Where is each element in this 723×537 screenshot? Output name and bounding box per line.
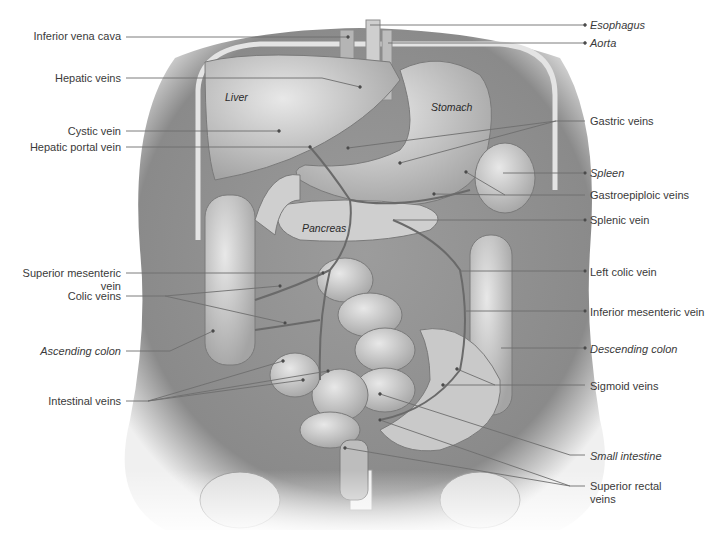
- callout-label-inferior-vena-cava: Inferior vena cava: [34, 30, 121, 43]
- leader-line-inferior-vena-cava-endpoint: [347, 36, 350, 39]
- leader-line-intestinal-veins-endpoint: [302, 379, 305, 382]
- callout-label-esophagus: Esophagus: [590, 19, 645, 32]
- leader-line-inferior-mesenteric-vein-endpoint: [584, 310, 587, 313]
- leader-line-gastroepiploic-veins-endpoint: [465, 171, 468, 174]
- leader-line-descending-colon-endpoint: [584, 347, 587, 350]
- leader-line-gastroepiploic-veins-endpoint: [433, 193, 436, 196]
- leader-line-superior-mesenteric-vein-endpoint: [322, 272, 325, 275]
- leader-line-colic-veins-endpoint: [284, 322, 287, 325]
- leader-line-small-intestine-endpoint: [379, 393, 382, 396]
- leader-line-superior-rectal-veins-endpoint: [379, 419, 382, 422]
- callout-label-descending-colon: Descending colon: [590, 343, 677, 356]
- leader-line-hepatic-portal-vein-endpoint: [309, 146, 312, 149]
- leader-line-esophagus-endpoint: [584, 24, 587, 27]
- callout-label-gastroepiploic-veins: Gastroepiploic veins: [590, 189, 689, 202]
- hepatic-portal-system-figure: LiverStomachPancreas Inferior vena cavaH…: [0, 0, 723, 537]
- callout-label-cystic-vein: Cystic vein: [68, 125, 121, 138]
- callout-label-ascending-colon: Ascending colon: [40, 345, 121, 358]
- leader-line-gastric-veins-endpoint: [347, 147, 350, 150]
- callout-label-colic-veins: Colic veins: [68, 290, 121, 303]
- leader-line-intestinal-veins-endpoint: [327, 370, 330, 373]
- callout-label-spleen: Spleen: [590, 167, 624, 180]
- callout-label-inferior-mesenteric-vein: Inferior mesenteric vein: [590, 306, 704, 319]
- leader-line-cystic-vein-endpoint: [278, 130, 281, 133]
- organ-label-liver: Liver: [225, 91, 248, 103]
- leader-line-sigmoid-veins-endpoint: [456, 368, 459, 371]
- leader-line-splenic-vein-endpoint: [584, 219, 587, 222]
- leader-line-ascending-colon-endpoint: [212, 330, 215, 333]
- leader-line-colic-veins-endpoint: [279, 285, 282, 288]
- leader-line-spleen-endpoint: [584, 172, 587, 175]
- callout-label-aorta: Aorta: [590, 37, 616, 50]
- leader-line-superior-rectal-veins-endpoint: [344, 447, 347, 450]
- callout-label-hepatic-portal-vein: Hepatic portal vein: [30, 141, 121, 154]
- leader-line-intestinal-veins-endpoint: [282, 360, 285, 363]
- leader-line-left-colic-vein-endpoint: [584, 270, 587, 273]
- callout-label-gastric-veins: Gastric veins: [590, 115, 654, 128]
- callout-label-superior-rectal-veins: Superior rectalveins: [590, 480, 662, 506]
- callout-label-splenic-vein: Splenic vein: [590, 214, 649, 227]
- callout-label-left-colic-vein: Left colic vein: [590, 266, 657, 279]
- spleen-shape: [475, 143, 535, 213]
- organ-label-stomach: Stomach: [431, 101, 472, 113]
- callout-label-hepatic-veins: Hepatic veins: [55, 72, 121, 85]
- organ-label-pancreas: Pancreas: [302, 222, 346, 234]
- ascending-colon-shape: [205, 195, 255, 365]
- callout-label-intestinal-veins: Intestinal veins: [48, 395, 121, 408]
- leader-line-sigmoid-veins-endpoint: [442, 384, 445, 387]
- callout-label-sigmoid-veins: Sigmoid veins: [590, 380, 658, 393]
- leader-line-hepatic-veins-endpoint: [359, 86, 362, 89]
- callout-label-small-intestine: Small intestine: [590, 450, 662, 463]
- leader-line-aorta-endpoint: [584, 42, 587, 45]
- leader-line-gastric-veins-endpoint: [399, 162, 402, 165]
